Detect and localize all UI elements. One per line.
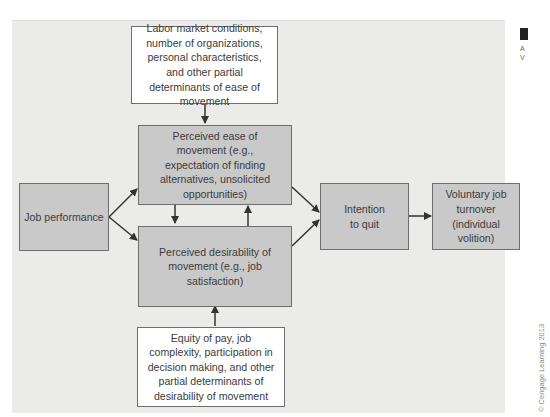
perceived-desirability-box: Perceived desirability of movement (e.g.… bbox=[138, 226, 292, 307]
perceived-ease-box: Perceived ease of movement (e.g., expect… bbox=[138, 125, 292, 205]
voluntary-turnover-box: Voluntary job turnover (individual volit… bbox=[432, 183, 520, 250]
job-performance-box: Job performance bbox=[19, 183, 109, 251]
labor-market-box: Labor market conditions, number of organ… bbox=[131, 26, 278, 104]
job-performance-label: Job performance bbox=[24, 210, 104, 225]
labor-market-label: Labor market conditions, number of organ… bbox=[138, 21, 271, 109]
equity-of-pay-label: Equity of pay, job complexity, participa… bbox=[146, 331, 276, 404]
perceived-desirability-label: Perceived desirability of movement (e.g.… bbox=[157, 245, 273, 289]
voluntary-turnover-label: Voluntary job turnover (individual volit… bbox=[443, 187, 509, 245]
copyright-notice: © Cengage Learning 2013 bbox=[537, 324, 546, 412]
intention-to-quit-label: Intention to quit bbox=[339, 202, 390, 231]
equity-of-pay-box: Equity of pay, job complexity, participa… bbox=[137, 327, 285, 407]
perceived-ease-label: Perceived ease of movement (e.g., expect… bbox=[157, 129, 273, 202]
intention-to-quit-box: Intention to quit bbox=[320, 183, 409, 250]
side-text: A V bbox=[520, 44, 525, 62]
side-heading-mark bbox=[520, 28, 528, 40]
